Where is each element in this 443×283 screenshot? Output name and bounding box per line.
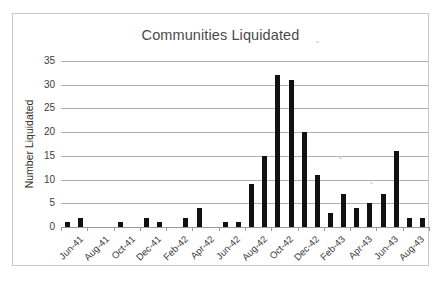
bar <box>367 203 372 227</box>
y-tick-label: 25 <box>44 103 55 113</box>
y-axis-title: Number Liquidated <box>22 61 36 227</box>
bar <box>420 218 425 227</box>
y-tick-label: 30 <box>44 80 55 90</box>
bar <box>197 208 202 227</box>
x-tick-label: Oct-42 <box>268 234 295 261</box>
bar <box>144 218 149 227</box>
x-tick-label: Dec-42 <box>292 234 320 262</box>
y-axis-title-label: Number Liquidated <box>23 100 35 189</box>
bar <box>78 218 83 227</box>
x-axis-labels: Jun-41Aug-41Oct-41Dec-41Feb-42Apr-42Jun-… <box>61 227 429 273</box>
bar <box>341 194 346 227</box>
x-tick-label: Dec-41 <box>135 234 163 262</box>
x-tick-label: Jun-41 <box>57 234 84 261</box>
x-tick-label: Aug-43 <box>398 234 426 262</box>
bar <box>407 218 412 227</box>
bar <box>354 208 359 227</box>
y-tick-label: 20 <box>44 127 55 137</box>
y-tick-label: 0 <box>49 222 55 232</box>
y-tick-label: 10 <box>44 175 55 185</box>
x-tick-label: Feb-43 <box>319 234 347 262</box>
bar <box>394 151 399 227</box>
y-tick-label: 35 <box>44 56 55 66</box>
bar <box>302 132 307 227</box>
bar-series <box>61 61 429 227</box>
bar <box>381 194 386 227</box>
x-tick-label: Oct-41 <box>110 234 137 261</box>
bar <box>328 213 333 227</box>
bar <box>183 218 188 227</box>
x-tick-label: Jun-43 <box>372 234 399 261</box>
chart-container: Communities Liquidated Number Liquidated… <box>12 13 429 266</box>
y-tick-label: 5 <box>49 198 55 208</box>
bar <box>249 184 254 227</box>
x-tick-label: Feb-42 <box>161 234 189 262</box>
x-tick-label: Apr-42 <box>189 234 216 261</box>
x-tick-label: Aug-42 <box>240 234 268 262</box>
bar <box>289 80 294 227</box>
bar <box>275 75 280 227</box>
x-tick-mark <box>429 227 430 231</box>
plot-area: 05101520253035 Jun-41Aug-41Oct-41Dec-41F… <box>61 61 429 227</box>
chart-title: Communities Liquidated <box>13 27 428 43</box>
bar <box>315 175 320 227</box>
x-tick-label: Aug-41 <box>82 234 110 262</box>
y-tick-label: 15 <box>44 151 55 161</box>
bar <box>262 156 267 227</box>
x-tick-label: Apr-43 <box>347 234 374 261</box>
x-tick-label: Jun-42 <box>215 234 242 261</box>
